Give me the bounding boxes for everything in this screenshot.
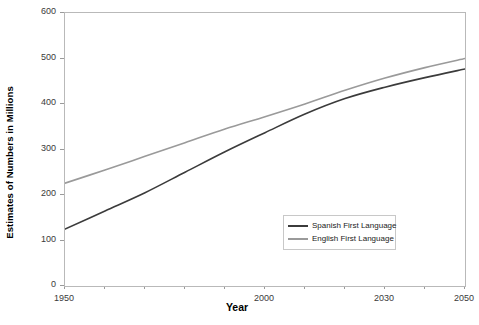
x-axis-title: Year bbox=[0, 301, 474, 313]
y-tick-label: 600 bbox=[8, 6, 56, 16]
plot-area bbox=[64, 12, 466, 287]
y-tick-label: 200 bbox=[8, 188, 56, 198]
legend-item: Spanish First Language bbox=[288, 219, 391, 232]
y-tick-label: 400 bbox=[8, 97, 56, 107]
legend-color-swatch bbox=[288, 225, 308, 227]
legend-label: Spanish First Language bbox=[312, 221, 397, 230]
y-tick-label: 100 bbox=[8, 234, 56, 244]
series-line bbox=[65, 69, 465, 229]
legend-item: English First Language bbox=[288, 232, 391, 245]
series-line bbox=[65, 59, 465, 184]
y-tick-label: 500 bbox=[8, 52, 56, 62]
legend-color-swatch bbox=[288, 238, 308, 240]
y-axis-title: Estimates of Numbers in Millions bbox=[0, 0, 18, 325]
y-tick-label: 0 bbox=[8, 279, 56, 289]
y-tick-label: 300 bbox=[8, 143, 56, 153]
legend-label: English First Language bbox=[312, 234, 394, 243]
series-lines bbox=[65, 13, 465, 286]
chart-legend: Spanish First LanguageEnglish First Lang… bbox=[283, 215, 396, 250]
